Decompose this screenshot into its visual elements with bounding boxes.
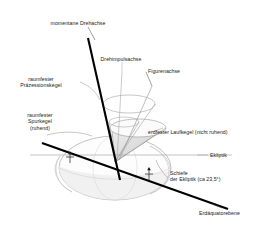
label-angular-momentum-axis: Drehimpulsachse	[84, 56, 158, 62]
label-earth-equatorial-plane: Erdäquatorebene	[199, 210, 268, 216]
label-space-fixed-precession-cone: raumfester Präzessionskegel	[4, 76, 78, 89]
precession-cone-leader	[80, 82, 100, 100]
label-ecliptic: Ekliptik	[210, 152, 260, 158]
label-obliquity-of-ecliptic: Schiefe der Ekliptik (ca 23,5°)	[170, 170, 266, 183]
label-space-fixed-track-cone: raumfester Spurkegel (ruhend)	[6, 112, 74, 131]
track-cone-leader	[47, 132, 92, 136]
label-figure-axis: Figurenachse	[148, 68, 208, 74]
precession-diagram: momentane Drehachse Drehimpulsachse Figu…	[0, 0, 268, 235]
label-instant-rotation-axis: momentane Drehachse	[28, 20, 128, 26]
label-earth-fixed-rolling-cone: erdfester Laufkegel (nicht ruhend)	[148, 129, 268, 135]
precession-cone-rim	[103, 95, 155, 113]
